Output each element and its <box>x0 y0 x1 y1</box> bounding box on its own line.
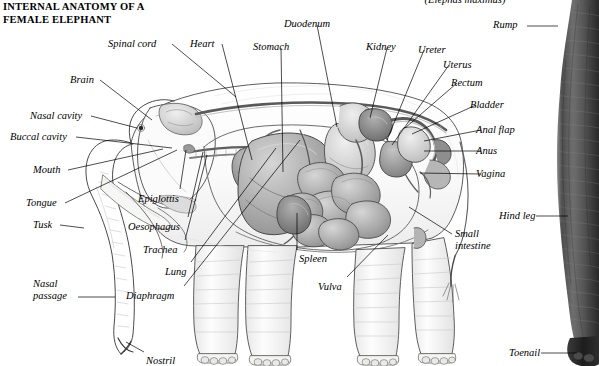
label-heart: Heart <box>190 38 215 50</box>
label-bladder: Bladder <box>470 99 504 111</box>
label-toenail: Toenail <box>509 347 540 359</box>
label-hind-leg: Hind leg <box>499 210 535 222</box>
elephant-leg-photograph <box>0 0 599 366</box>
label-small-intestine: Small intestine <box>455 228 491 251</box>
label-uterus: Uterus <box>443 59 472 71</box>
page-title: INTERNAL ANATOMY OF A FEMALE ELEPHANT <box>3 1 233 26</box>
label-brain: Brain <box>70 74 94 86</box>
label-lung: Lung <box>165 266 187 278</box>
label-mouth: Mouth <box>33 164 60 176</box>
label-vulva: Vulva <box>318 281 342 293</box>
anatomy-figure: Spinal cordHeartStomachDuodenumKidneyUre… <box>0 0 599 366</box>
label-diaphragm: Diaphragm <box>126 290 174 302</box>
label-tusk: Tusk <box>33 219 52 231</box>
label-tongue: Tongue <box>26 197 57 209</box>
label-oesophagus: Oesophagus <box>128 221 180 233</box>
scientific-name: (Elephas maximus) <box>385 0 545 5</box>
label-spleen: Spleen <box>299 253 327 265</box>
label-duodenum: Duodenum <box>284 18 330 30</box>
label-nasal-cavity: Nasal cavity <box>30 110 82 122</box>
label-spinal-cord: Spinal cord <box>108 38 156 50</box>
label-rump: Rump <box>493 19 518 31</box>
label-nostril: Nostril <box>146 355 175 366</box>
label-kidney: Kidney <box>366 41 396 53</box>
label-anal-flap: Anal flap <box>476 124 515 136</box>
label-nasal-passage: Nasal passage <box>33 278 67 301</box>
label-ureter: Ureter <box>418 44 446 56</box>
label-vagina: Vagina <box>476 168 505 180</box>
label-buccal-cavity: Buccal cavity <box>10 131 67 143</box>
label-anus: Anus <box>476 145 497 157</box>
label-trachea: Trachea <box>143 244 177 256</box>
label-epiglottis: Epiglottis <box>138 193 179 205</box>
label-stomach: Stomach <box>253 41 289 53</box>
label-rectum: Rectum <box>451 77 483 89</box>
